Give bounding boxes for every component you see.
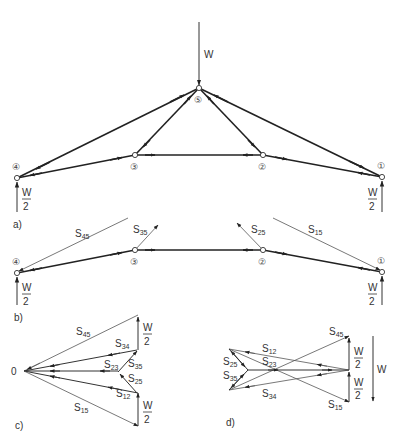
reaction-left-num: W — [22, 187, 32, 198]
b-label-s15: S15 — [308, 224, 323, 236]
node-label-5: ⑤ — [194, 95, 202, 105]
d-label-s34: S34 — [262, 388, 277, 400]
c-upper-load-den: 2 — [144, 336, 150, 347]
reaction-right-num: W — [368, 187, 378, 198]
c-lower-load-num: W — [143, 400, 153, 411]
d-lower-load-num: W — [354, 377, 364, 388]
panel-label-d: d) — [226, 417, 235, 428]
panel-label-b: b) — [14, 312, 23, 323]
truss-force-diagram-figure: W ⑤ ④ ③ ② ① W — [0, 0, 401, 442]
c-label-s35: S35 — [128, 358, 143, 370]
panel-b-free-body: S45 S35 S25 S15 ④ ③ ② ① W 2 W 2 b) — [12, 218, 385, 323]
panel-a-truss: W ⑤ ④ ③ ② ① W — [12, 22, 385, 230]
panel-c-force-polygon: 0 S45 S34 S23 S35 S25 S12 S15 W 2 W 2 — [11, 315, 153, 431]
c-ray-s34 — [24, 350, 137, 371]
arrow-a-35-bot — [143, 140, 150, 147]
node-5 — [196, 85, 201, 90]
arrow-a-45-bot — [36, 162, 50, 169]
b-label-s25: S25 — [251, 224, 266, 236]
b-label-s45: S45 — [75, 228, 90, 240]
b-node-1 — [379, 269, 384, 274]
b-node-label-2: ② — [258, 257, 266, 267]
d-total-load-label: W — [377, 364, 387, 375]
c-label-s15: S15 — [74, 402, 89, 414]
d-upper-load-num: W — [354, 346, 364, 357]
c-upper-load-num: W — [143, 322, 153, 333]
b-reaction-left-den: 2 — [23, 296, 29, 307]
c-lower-load-den: 2 — [144, 414, 150, 425]
node-label-2: ② — [258, 162, 266, 172]
c-ray-s12-arrow1 — [50, 376, 60, 378]
arrow-a-25-top — [207, 96, 214, 104]
panel-label-c: c) — [15, 420, 23, 431]
reaction-left-den: 2 — [23, 201, 29, 212]
d-label-s35: S35 — [223, 370, 238, 382]
d-ray-s12-arrow1 — [245, 352, 255, 354]
d-ray-s15 — [229, 349, 349, 402]
b-node-label-3: ③ — [130, 257, 138, 267]
b-node-2 — [260, 247, 265, 252]
d-label-s25: S25 — [223, 356, 238, 368]
arrow-a-35-top — [184, 96, 191, 104]
load-label-w: W — [204, 49, 214, 60]
d-label-s45: S45 — [329, 326, 344, 338]
d-label-s23: S23 — [262, 356, 277, 368]
c-label-s23: S23 — [104, 359, 119, 371]
b-node-3 — [132, 247, 137, 252]
d-label-s12: S12 — [262, 343, 277, 355]
c-label-s45: S45 — [76, 326, 91, 338]
c-origin-label: 0 — [11, 366, 17, 377]
c-label-s34: S34 — [115, 338, 130, 350]
b-reaction-right-num: W — [368, 282, 378, 293]
arrow-a-25-bot — [248, 140, 255, 147]
node-label-4: ④ — [12, 162, 20, 172]
c-label-s25: S25 — [128, 373, 143, 385]
reaction-right-den: 2 — [369, 201, 375, 212]
b-reaction-left-num: W — [22, 282, 32, 293]
arrow-a-15-top — [214, 95, 228, 102]
d-upper-load-den: 2 — [355, 359, 361, 370]
d-ray-s12-arrow2 — [317, 364, 327, 366]
b-reaction-right-den: 2 — [369, 296, 375, 307]
panel-label-a: a) — [13, 219, 22, 230]
d-ray-s34-arrow2 — [317, 374, 327, 376]
node-1 — [379, 174, 384, 179]
node-2 — [260, 152, 265, 157]
d-lower-load-den: 2 — [355, 390, 361, 401]
arrow-a-15-bot — [349, 161, 364, 168]
node-label-3: ③ — [130, 162, 138, 172]
b-node-4 — [14, 270, 19, 275]
b-force-s25 — [237, 223, 263, 250]
b-node-label-1: ① — [377, 256, 385, 266]
d-ray-s34-arrow1 — [245, 386, 255, 388]
node-label-1: ① — [377, 161, 385, 171]
b-force-s45 — [19, 218, 128, 271]
node-3 — [132, 152, 137, 157]
panel-d-force-polygon: W S45 S12 S23 S25 S35 S34 S15 W 2 W 2 d) — [223, 326, 387, 428]
d-label-s15: S15 — [328, 399, 343, 411]
b-label-s35: S35 — [133, 224, 148, 236]
b-node-label-4: ④ — [12, 257, 20, 267]
node-4 — [14, 175, 19, 180]
arrow-a-45-top — [170, 95, 184, 102]
d-ray-s45 — [229, 336, 349, 390]
c-ray-s34-arrow2 — [108, 353, 120, 355]
